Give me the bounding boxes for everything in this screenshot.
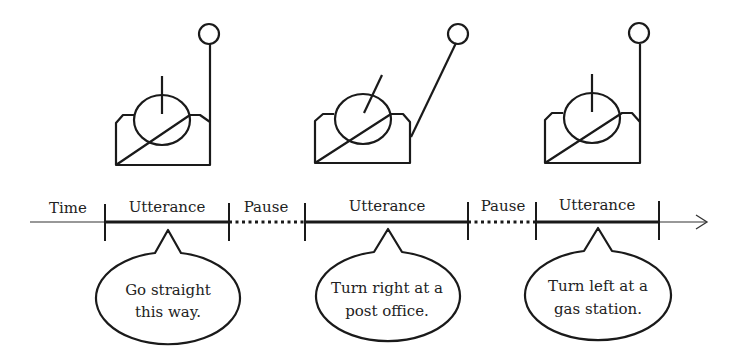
speech-bubble-1: Go straight this way.	[96, 230, 240, 344]
robot-body	[116, 115, 210, 165]
bubble-text-line: post office.	[345, 302, 429, 320]
time-label: Time	[49, 199, 87, 217]
bubble-text-line: Go straight	[125, 281, 211, 299]
segment-label: Pause	[481, 197, 526, 215]
bubble-text-line: this way.	[135, 303, 201, 321]
bubble-text-line: Turn right at a	[331, 279, 443, 297]
bubble-text-line: gas station.	[554, 300, 642, 318]
speech-bubble-2: Turn right at a post office.	[316, 229, 460, 341]
segment-label: Utterance	[129, 198, 206, 216]
speech-bubble-3: Turn left at a gas station.	[525, 228, 671, 340]
robot-figure-2	[315, 24, 468, 163]
segment-label: Pause	[244, 198, 289, 216]
robot-hand	[629, 23, 649, 43]
robot-figure-1	[116, 24, 219, 165]
robot-hand	[199, 24, 219, 44]
bubble-text-line: Turn left at a	[548, 277, 648, 295]
timeline: Time Utterance Pause Utterance Pause Utt…	[30, 196, 707, 241]
segment-label: Utterance	[559, 196, 636, 214]
robot-body	[545, 113, 640, 163]
robot-arm-pointing	[411, 43, 456, 137]
robot-hand	[448, 24, 468, 44]
robot-body	[315, 114, 410, 163]
robot-figure-3	[545, 23, 649, 163]
segment-label: Utterance	[349, 197, 426, 215]
utterance-timeline-diagram: Time Utterance Pause Utterance Pause Utt…	[0, 0, 734, 364]
